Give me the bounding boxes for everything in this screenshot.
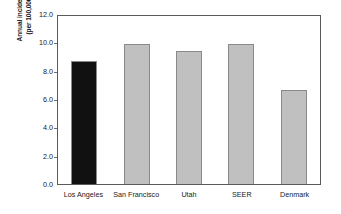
x-axis-tick-label: San Francisco	[110, 190, 163, 204]
y-axis-tick-mark	[54, 157, 57, 158]
bar	[281, 90, 307, 184]
y-axis-tick-labels: 0.02.04.06.08.010.012.0	[28, 0, 53, 214]
x-axis-tick-label: Denmark	[268, 190, 321, 204]
y-axis-tick-mark	[54, 72, 57, 73]
x-axis-tick-label: SEER	[215, 190, 268, 204]
bar	[228, 44, 254, 184]
y-axis-tick-mark	[54, 100, 57, 101]
bar	[71, 61, 97, 184]
bar-chart: Annual incidence (per 100,000) 0.02.04.0…	[0, 0, 341, 214]
bar-slot	[110, 16, 162, 184]
bar-slot	[268, 16, 320, 184]
bar-slot	[58, 16, 110, 184]
bars-layer	[58, 16, 320, 184]
bar-slot	[163, 16, 215, 184]
y-axis-title-line-1: Annual incidence	[16, 0, 25, 42]
x-axis-tick-label: Utah	[163, 190, 216, 204]
bar	[124, 44, 150, 184]
y-axis-tick-mark	[54, 128, 57, 129]
bar-slot	[215, 16, 267, 184]
y-axis-tick-label: 2.0	[28, 153, 53, 161]
x-axis-tick-labels: Los AngelesSan FranciscoUtahSEERDenmark	[57, 190, 321, 204]
y-axis-tick-label: 10.0	[28, 39, 53, 47]
y-axis-tick-label: 12.0	[28, 11, 53, 19]
y-axis-tick-label: 4.0	[28, 124, 53, 132]
y-axis-tick-label: 6.0	[28, 96, 53, 104]
y-axis-tick-label: 8.0	[28, 68, 53, 76]
x-axis-tick-label: Los Angeles	[57, 190, 110, 204]
y-axis-tick-mark	[54, 43, 57, 44]
plot-area	[57, 15, 321, 185]
y-axis-tick-label: 0.0	[28, 181, 53, 189]
bar	[176, 51, 202, 184]
